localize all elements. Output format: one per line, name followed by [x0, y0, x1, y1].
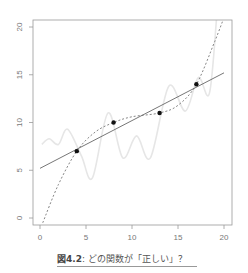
x-tick-label: 5 [84, 233, 89, 242]
data-point [111, 120, 115, 124]
y-tick-label: 20 [15, 22, 24, 31]
linear-fit-line [40, 73, 224, 169]
data-point [194, 82, 198, 86]
plot-area [40, 17, 224, 222]
plot-frame [33, 20, 232, 225]
chart: 0510152005101520 [0, 0, 248, 250]
y-tick-label: 10 [15, 118, 24, 127]
wiggly-interpolation-curve [42, 17, 217, 179]
data-point [157, 111, 161, 115]
y-tick-label: 0 [15, 215, 24, 220]
axes: 0510152005101520 [15, 20, 232, 242]
x-tick-label: 20 [220, 233, 229, 242]
figure-caption: 図4.2: どの関数が「正しい」？ [57, 252, 197, 267]
y-tick-label: 5 [15, 167, 24, 172]
x-tick-label: 15 [174, 233, 183, 242]
x-tick-label: 0 [38, 233, 43, 242]
caption-text: : どの関数が「正しい」？ [82, 254, 187, 264]
figure-number: 図4.2 [57, 254, 82, 264]
y-tick-label: 15 [15, 70, 24, 79]
data-point [75, 149, 79, 153]
x-tick-label: 10 [128, 233, 137, 242]
